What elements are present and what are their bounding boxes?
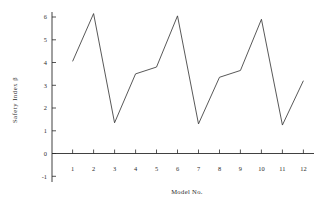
x-tick-label: 10 <box>258 165 264 172</box>
y-tick-label: 5 <box>44 36 47 43</box>
y-tick-label: 6 <box>44 13 47 20</box>
x-tick-label: 2 <box>92 165 95 172</box>
x-tick-label: 6 <box>176 165 179 172</box>
chart-background <box>0 0 324 205</box>
x-tick-label: 3 <box>113 165 116 172</box>
y-tick-label: 0 <box>44 150 47 157</box>
y-tick-label: 3 <box>44 82 47 89</box>
x-tick-label: 12 <box>300 165 306 172</box>
line-chart: 6 5 4 3 2 1 0 -1 1 2 3 4 5 6 7 8 <box>0 0 324 205</box>
x-axis-title: Model No. <box>171 188 203 195</box>
x-tick-label: 5 <box>155 165 158 172</box>
x-tick-label: 1 <box>71 165 74 172</box>
x-tick-label: 8 <box>218 165 221 172</box>
y-axis-title: Safety Index β <box>11 77 18 123</box>
y-tick-label: 1 <box>44 127 47 134</box>
x-tick-label: 9 <box>239 165 242 172</box>
y-tick-label: -1 <box>42 173 47 180</box>
x-tick-label: 11 <box>279 165 285 172</box>
y-tick-label: 2 <box>44 104 47 111</box>
chart-figure: 6 5 4 3 2 1 0 -1 1 2 3 4 5 6 7 8 <box>0 0 324 205</box>
